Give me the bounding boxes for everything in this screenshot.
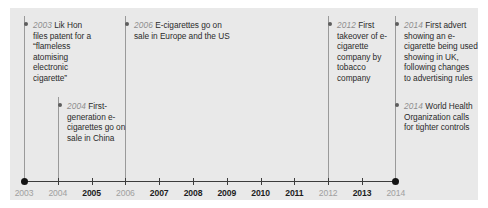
- event-callout-2014-advert: 2014 First advert showing an e-cigarette…: [404, 20, 478, 84]
- axis-tick-2013: [362, 178, 363, 185]
- event-callout-2014-who: 2014 World Health Organization calls for…: [404, 101, 478, 133]
- event-bullet-icon: [58, 103, 62, 107]
- event-year: 2006: [134, 20, 155, 30]
- axis-tick-2007: [159, 178, 160, 185]
- event-callout-2012: 2012 First takeover of e-cigarette compa…: [337, 20, 393, 84]
- leader-line-2003: [24, 16, 25, 181]
- axis-year-label-2014: 2014: [381, 188, 411, 198]
- axis-tick-2010: [261, 178, 262, 185]
- event-year: 2014: [404, 101, 425, 111]
- axis-tick-2006: [125, 178, 126, 185]
- event-year: 2004: [67, 101, 88, 111]
- axis-tick-2009: [227, 178, 228, 185]
- axis-start-dot: [21, 178, 28, 185]
- axis-year-label-2011: 2011: [279, 188, 309, 198]
- axis-year-label-2003: 2003: [9, 188, 39, 198]
- event-bullet-icon: [395, 103, 399, 107]
- event-bullet-icon: [24, 22, 28, 26]
- event-callout-2004: 2004 First-generation e-cigarettes go on…: [67, 101, 129, 143]
- axis-tick-2012: [328, 178, 329, 185]
- event-year: 2014: [404, 20, 425, 30]
- axis-tick-2011: [294, 178, 295, 185]
- leader-line-2014-advert: [395, 16, 396, 181]
- axis-tick-2008: [193, 178, 194, 185]
- axis-year-label-2005: 2005: [77, 188, 107, 198]
- leader-line-2006: [125, 16, 126, 181]
- leader-line-2004: [58, 97, 59, 181]
- axis-year-label-2009: 2009: [212, 188, 242, 198]
- axis-tick-2005: [92, 178, 93, 185]
- axis-year-label-2013: 2013: [347, 188, 377, 198]
- event-year: 2012: [337, 20, 358, 30]
- event-bullet-icon: [395, 22, 399, 26]
- event-callout-2006: 2006 E-cigarettes go on sale in Europe a…: [134, 20, 232, 41]
- axis-tick-2004: [58, 178, 59, 185]
- axis-end-dot: [392, 178, 399, 185]
- axis-year-label-2004: 2004: [43, 188, 73, 198]
- event-bullet-icon: [125, 22, 129, 26]
- axis-year-label-2008: 2008: [178, 188, 208, 198]
- timeline-panel: 2003 Lik Hon files patent for a “flamele…: [10, 8, 478, 200]
- axis-year-label-2007: 2007: [144, 188, 174, 198]
- axis-year-label-2006: 2006: [110, 188, 140, 198]
- event-year: 2003: [33, 20, 54, 30]
- timeline-axis: [24, 181, 396, 182]
- leader-line-2012: [328, 16, 329, 181]
- event-callout-2003: 2003 Lik Hon files patent for a “flamele…: [33, 20, 97, 84]
- axis-year-label-2012: 2012: [313, 188, 343, 198]
- axis-year-label-2010: 2010: [246, 188, 276, 198]
- event-bullet-icon: [328, 22, 332, 26]
